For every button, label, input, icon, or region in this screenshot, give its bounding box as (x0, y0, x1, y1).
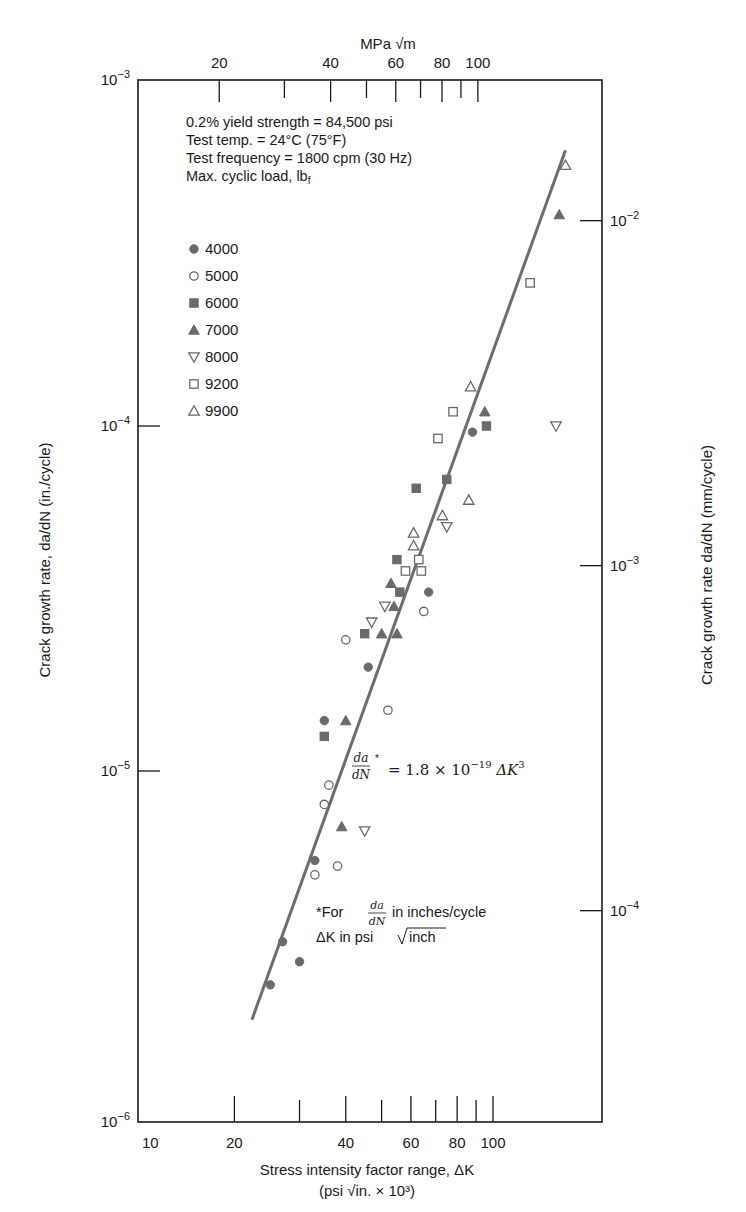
data-point-4000 (295, 958, 303, 966)
data-point-8000 (380, 602, 390, 611)
legend-label: 4000 (205, 240, 238, 257)
x-tick-label-top: 80 (434, 54, 451, 71)
legend-label: 9900 (205, 402, 238, 419)
x-axis-units: (psi √in. × 10³) (319, 1182, 415, 1199)
data-point-7000 (554, 209, 564, 218)
legend-marker (190, 299, 198, 307)
data-point-5000 (311, 871, 319, 879)
legend-marker (190, 245, 198, 253)
data-points (266, 160, 571, 989)
footnote: *For da dN in inches/cycle ΔK in psi inc… (316, 899, 486, 945)
data-point-4000 (468, 428, 476, 436)
x-tick-label-top: 60 (387, 54, 404, 71)
x-tick-label-top: 40 (322, 54, 339, 71)
footnote-line2: ΔK in psi (316, 929, 373, 945)
y-axis-title-right: Crack growth rate da/dN (mm/cycle) (698, 445, 715, 685)
x-tick-label-bottom: 40 (337, 1134, 354, 1151)
legend-marker (190, 272, 198, 280)
data-point-6000 (396, 588, 404, 596)
data-point-5000 (325, 781, 333, 789)
data-point-6000 (360, 630, 368, 638)
equation-rhs: = 1.8 × 10−19 ΔK3 (388, 759, 525, 779)
data-point-5000 (420, 607, 428, 615)
y-axis-title-left: Crack growth rate, da/dN (in./cycle) (36, 442, 53, 677)
fit-line (252, 150, 566, 1020)
info-line: Test temp. = 24°C (75°F) (186, 132, 346, 148)
data-point-9200 (434, 434, 442, 442)
data-point-7000 (341, 715, 351, 724)
data-point-7000 (480, 407, 490, 416)
legend: 4000500060007000800092009900 (189, 240, 239, 419)
data-point-9900 (464, 495, 474, 504)
data-point-6000 (443, 475, 451, 483)
data-point-6000 (482, 422, 490, 430)
data-point-7000 (386, 578, 396, 587)
data-point-7000 (336, 821, 346, 830)
legend-label: 8000 (205, 348, 238, 365)
data-point-4000 (278, 938, 286, 946)
test-conditions: 0.2% yield strength = 84,500 psi Test te… (186, 114, 412, 186)
x-tick-label-bottom: 80 (449, 1134, 466, 1151)
data-point-6000 (412, 484, 420, 492)
data-point-4000 (311, 856, 319, 864)
x-axis-title: Stress intensity factor range, ΔK (260, 1161, 474, 1178)
data-point-9900 (408, 528, 418, 537)
legend-label: 9200 (205, 375, 238, 392)
y-tick-label-left: 10−5 (101, 759, 130, 779)
y-tick-label-left: 10−4 (101, 414, 130, 434)
y-tick-label-right: 10−2 (610, 209, 639, 229)
info-line: 0.2% yield strength = 84,500 psi (186, 114, 393, 130)
top-axis-title: MPa √m (360, 35, 416, 52)
x-tick-label-top: 100 (465, 54, 490, 71)
y-tick-label-left: 10−6 (101, 1110, 130, 1130)
data-point-9900 (465, 381, 475, 390)
footnote-root: inch (409, 929, 436, 945)
data-point-8000 (366, 618, 376, 627)
data-point-5000 (320, 800, 328, 808)
plot-frame (138, 80, 602, 1122)
data-point-9200 (415, 555, 423, 563)
equation-star: * (375, 753, 379, 764)
equation-dN: dN (352, 768, 371, 782)
x-tick-label-bottom: 20 (226, 1134, 243, 1151)
data-point-4000 (266, 981, 274, 989)
footnote-line1-prefix: *For (316, 904, 344, 920)
data-point-4000 (320, 716, 328, 724)
legend-label: 7000 (205, 321, 238, 338)
data-point-9200 (417, 567, 425, 575)
data-point-9200 (526, 279, 534, 287)
info-line: Test frequency = 1800 cpm (30 Hz) (186, 150, 412, 166)
y-tick-label-left: 10−3 (101, 68, 130, 88)
legend-marker (190, 380, 198, 388)
fit-equation: da dN * = 1.8 × 10−19 ΔK3 (352, 751, 525, 782)
x-tick-label-bottom: 10 (142, 1134, 159, 1151)
legend-label: 6000 (205, 294, 238, 311)
x-tick-label-bottom: 60 (403, 1134, 420, 1151)
y-tick-label-right: 10−4 (610, 899, 639, 919)
axis-ticks (138, 80, 602, 1122)
footnote-dN: dN (369, 915, 386, 928)
data-point-6000 (393, 555, 401, 563)
y-tick-label-right: 10−3 (610, 554, 639, 574)
legend-marker (189, 406, 199, 415)
legend-marker (189, 353, 199, 362)
data-point-9200 (401, 567, 409, 575)
equation-da: da (354, 751, 369, 765)
data-point-5000 (342, 636, 350, 644)
data-point-5000 (384, 706, 392, 714)
data-point-8000 (551, 422, 561, 431)
legend-title: Max. cyclic load, lbf (186, 168, 311, 186)
data-point-9200 (449, 408, 457, 416)
data-point-4000 (424, 588, 432, 596)
footnote-da: da (370, 899, 384, 912)
data-point-8000 (359, 827, 369, 836)
legend-marker (189, 325, 199, 334)
x-tick-label-top: 20 (211, 54, 228, 71)
data-point-7000 (376, 629, 386, 638)
data-point-9900 (437, 510, 447, 519)
data-point-5000 (333, 862, 341, 870)
data-point-8000 (442, 523, 452, 532)
data-point-6000 (320, 732, 328, 740)
legend-label: 5000 (205, 267, 238, 284)
footnote-line1-suffix: in inches/cycle (392, 904, 486, 920)
